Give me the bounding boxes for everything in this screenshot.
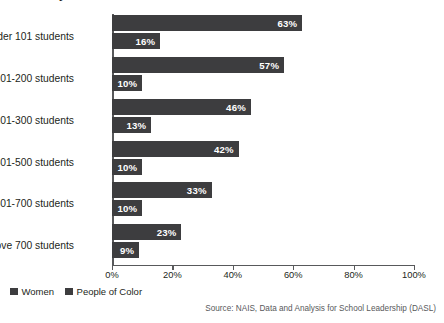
bar-value-label: 16% xyxy=(136,36,156,47)
legend-item-people-of-color[interactable]: People of Color xyxy=(65,286,142,297)
legend-item-women[interactable]: Women xyxy=(10,286,54,297)
bar-value-label: 42% xyxy=(214,143,234,154)
bar-people-of-color[interactable]: 9% xyxy=(112,242,139,258)
x-axis-tick-label: 80% xyxy=(334,270,374,280)
bar-value-label: 23% xyxy=(157,227,177,238)
bar-value-label: 9% xyxy=(120,245,134,256)
bar-people-of-color[interactable]: 10% xyxy=(112,75,142,91)
bar-group: Above 700 students23%9% xyxy=(112,224,414,266)
bar-value-label: 46% xyxy=(226,101,246,112)
category-label: Under 101 students xyxy=(0,31,74,42)
x-axis-tick-label: 20% xyxy=(152,270,192,280)
bar-value-label: 10% xyxy=(117,77,137,88)
bar-value-label: 13% xyxy=(126,119,146,130)
legend-swatch-people-of-color-icon xyxy=(65,288,73,296)
bar-people-of-color[interactable]: 16% xyxy=(112,33,160,49)
plot-area: Under 101 students63%16%101-200 students… xyxy=(112,14,414,265)
x-axis-tick-label: 100% xyxy=(394,270,434,280)
legend-swatch-women-icon xyxy=(10,288,18,296)
bar-women[interactable]: 42% xyxy=(112,141,239,157)
bar-women[interactable]: 23% xyxy=(112,224,181,240)
x-axis-tick-label: 0% xyxy=(92,270,132,280)
chart-legend: Women People of Color xyxy=(10,286,142,297)
category-label: 101-200 students xyxy=(0,73,74,84)
bar-group: 201-300 students46%13% xyxy=(112,99,414,141)
category-label: 501-700 students xyxy=(0,198,74,209)
bar-women[interactable]: 46% xyxy=(112,99,251,115)
x-axis-tick-label: 40% xyxy=(213,270,253,280)
legend-label-women: Women xyxy=(22,286,55,297)
bar-value-label: 10% xyxy=(117,161,137,172)
bar-value-label: 33% xyxy=(187,185,207,196)
bar-women[interactable]: 57% xyxy=(112,57,284,73)
category-label: 301-500 students xyxy=(0,157,74,168)
bar-group: 501-700 students33%10% xyxy=(112,182,414,224)
x-axis-tick-label: 60% xyxy=(273,270,313,280)
legend-label-people-of-color: People of Color xyxy=(77,286,142,297)
bar-people-of-color[interactable]: 13% xyxy=(112,117,151,133)
bar-group: 101-200 students57%10% xyxy=(112,57,414,99)
bar-people-of-color[interactable]: 10% xyxy=(112,159,142,175)
chart-title: by Number of Students xyxy=(52,0,432,3)
bar-women[interactable]: 33% xyxy=(112,182,212,198)
bar-group: 301-500 students42%10% xyxy=(112,141,414,183)
category-label: Above 700 students xyxy=(0,240,74,251)
bar-group: Under 101 students63%16% xyxy=(112,15,414,57)
bar-women[interactable]: 63% xyxy=(112,15,302,31)
bar-value-label: 10% xyxy=(117,203,137,214)
bar-chart-figure: by Number of Students Under 101 students… xyxy=(0,0,444,323)
source-note: Source: NAIS, Data and Analysis for Scho… xyxy=(205,304,436,313)
bar-people-of-color[interactable]: 10% xyxy=(112,200,142,216)
bar-value-label: 63% xyxy=(277,18,297,29)
category-label: 201-300 students xyxy=(0,115,74,126)
bar-value-label: 57% xyxy=(259,59,279,70)
